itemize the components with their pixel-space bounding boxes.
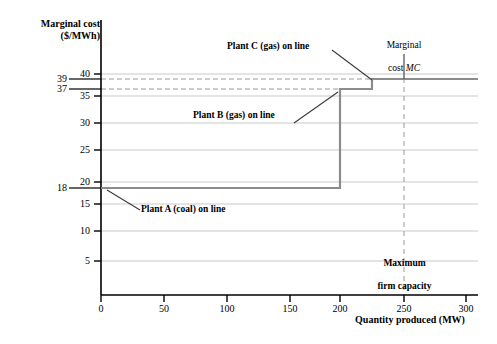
ytick-label-15: 15 xyxy=(68,198,90,209)
xtick-label-150: 150 xyxy=(277,303,303,314)
max-capacity-line2: firm capacity xyxy=(377,281,431,291)
marginal-cost-chart: Marginal cost ($/MWh) Quantity produced … xyxy=(0,0,497,344)
mc-label-italic: MC xyxy=(406,63,420,73)
ytick-label-10: 10 xyxy=(68,225,90,236)
maximum-firm-capacity-annotation: Maximum firm capacity xyxy=(352,246,457,292)
ytick-label-30: 30 xyxy=(68,117,90,128)
marginal-cost-curve-annotation: Marginal cost MC xyxy=(364,28,444,74)
max-capacity-line1: Maximum xyxy=(383,258,425,268)
xtick-label-100: 100 xyxy=(214,303,240,314)
marginal-cost-curve xyxy=(101,79,478,188)
xtick-label-250: 250 xyxy=(391,303,417,314)
horizontal-gridlines xyxy=(101,74,478,261)
x-axis-ticks xyxy=(101,295,466,302)
ytick-label-25: 25 xyxy=(68,144,90,155)
xtick-label-200: 200 xyxy=(327,303,353,314)
ytick-label-18: 18 xyxy=(45,182,67,193)
leader-plant-a xyxy=(107,190,140,210)
y-axis-ticks xyxy=(94,74,101,261)
xtick-label-50: 50 xyxy=(151,303,177,314)
ytick-label-5: 5 xyxy=(68,255,90,266)
ytick-label-37: 37 xyxy=(45,83,67,94)
ytick-label-40: 40 xyxy=(68,68,90,79)
ytick-label-35: 35 xyxy=(68,90,90,101)
plant-b-annotation: Plant B (gas) on line xyxy=(193,110,275,121)
plant-a-annotation: Plant A (coal) on line xyxy=(141,204,225,215)
mc-label-line1: Marginal xyxy=(387,40,422,50)
xtick-label-0: 0 xyxy=(88,303,114,314)
mc-label-line2: cost xyxy=(388,63,406,73)
plant-c-annotation: Plant C (gas) on line xyxy=(227,41,309,52)
leader-plant-b xyxy=(294,92,338,123)
ytick-label-20: 20 xyxy=(68,176,90,187)
xtick-label-300: 300 xyxy=(453,303,479,314)
dashed-reference-lines xyxy=(101,79,372,89)
